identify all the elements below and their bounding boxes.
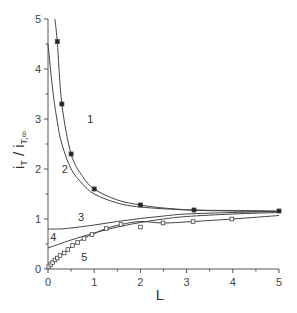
marker-curve-1 xyxy=(138,203,142,207)
marker-curve-5 xyxy=(62,251,66,255)
marker-curve-5 xyxy=(82,237,86,241)
marker-curve-5 xyxy=(139,225,143,229)
x-tick-label: 5 xyxy=(276,276,282,288)
marker-curve-5 xyxy=(104,227,108,231)
marker-curve-1 xyxy=(92,187,96,191)
svg-text:iT / iT,∞: iT / iT,∞ xyxy=(10,131,29,169)
x-tick-label: 1 xyxy=(91,276,97,288)
marker-curve-5 xyxy=(230,217,234,221)
data-markers xyxy=(47,40,281,269)
x-tick-label: 0 xyxy=(45,276,51,288)
marker-curve-5 xyxy=(71,244,75,248)
marker-curve-1 xyxy=(60,102,64,106)
marker-curve-1 xyxy=(192,208,196,212)
marker-curve-5 xyxy=(76,241,80,245)
x-tick-label: 2 xyxy=(137,276,143,288)
marker-curve-5 xyxy=(161,221,165,225)
marker-curve-5 xyxy=(66,248,70,252)
curve-label-5: 5 xyxy=(81,251,87,263)
curve-label-2: 2 xyxy=(62,163,68,175)
y-axis-title: iT / iT,∞ xyxy=(10,131,29,169)
marker-curve-1 xyxy=(277,209,281,213)
curve-label-1: 1 xyxy=(87,113,93,125)
marker-curve-1 xyxy=(69,152,73,156)
marker-curve-5 xyxy=(90,233,94,237)
marker-curve-5 xyxy=(191,220,195,224)
chart-plot: 012345012345 12345 L iT / iT,∞ xyxy=(0,0,297,313)
marker-curve-5 xyxy=(58,254,62,258)
y-tick-label: 4 xyxy=(35,63,41,75)
x-tick-label: 4 xyxy=(230,276,236,288)
y-tick-label: 5 xyxy=(35,13,41,25)
curve-label-3: 3 xyxy=(78,211,84,223)
x-tick-label: 3 xyxy=(184,276,190,288)
x-axis-title: L xyxy=(156,286,164,303)
curves xyxy=(48,19,279,269)
curve-2 xyxy=(48,44,279,212)
curve-label-4: 4 xyxy=(50,231,56,243)
y-tick-label: 3 xyxy=(35,113,41,125)
marker-curve-5 xyxy=(119,223,123,227)
y-tick-label: 0 xyxy=(35,263,41,275)
marker-curve-1 xyxy=(55,40,59,44)
y-tick-label: 2 xyxy=(35,163,41,175)
y-tick-label: 1 xyxy=(35,213,41,225)
